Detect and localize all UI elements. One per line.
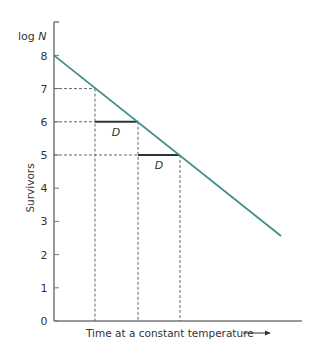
survivor-curve-line (54, 55, 281, 236)
y-tick-2: 2 (41, 249, 48, 262)
y-tick-4: 4 (41, 182, 48, 195)
y-tick-1: 1 (41, 282, 48, 295)
y-tick-8: 8 (41, 50, 48, 63)
survivor-curve-chart: 0 1 2 3 4 5 6 7 8 log N Survivors D D Ti… (0, 0, 315, 351)
y-axis-title: Survivors (24, 163, 36, 212)
x-axis-title: Time at a constant temperature (85, 327, 254, 339)
y-tick-0: 0 (41, 315, 48, 328)
y-tick-labels: 0 1 2 3 4 5 6 7 8 (41, 50, 48, 328)
log-n-label: log N (18, 30, 47, 43)
dashed-guides (54, 89, 180, 321)
d-label-2: D (155, 159, 163, 172)
d-label-1: D (112, 126, 120, 139)
y-tick-6: 6 (41, 116, 48, 129)
y-tick-3: 3 (41, 215, 48, 228)
y-tick-5: 5 (41, 149, 48, 162)
y-tick-7: 7 (41, 83, 48, 96)
